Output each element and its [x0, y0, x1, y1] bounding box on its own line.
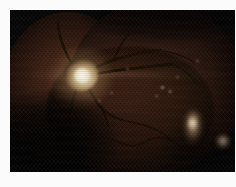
vignette-superior	[80, 10, 235, 52]
retina-lobe-nasal	[10, 12, 134, 164]
film-texture-overlay	[10, 10, 235, 172]
optic-cup	[74, 68, 90, 83]
retina-illumination-glow	[10, 10, 235, 172]
exudate-speck	[196, 60, 199, 62]
optic-disc	[64, 58, 98, 91]
exudate-speck	[176, 76, 179, 78]
optic-disc-halo	[50, 46, 112, 106]
exudate-speck	[168, 90, 172, 93]
vignette-inferonasal	[10, 80, 140, 172]
vessel-segment	[82, 76, 122, 120]
exudate-speck	[160, 86, 165, 89]
vascular-arcade-overlay	[10, 10, 235, 172]
screenshot-viewport: Retinal fundus photograph	[0, 0, 236, 187]
lesion-peripheral	[216, 134, 230, 148]
vessel-segment	[174, 142, 196, 160]
vessel-segment	[82, 64, 172, 76]
vessel-segment	[172, 64, 196, 82]
vessel-segment	[69, 76, 82, 144]
illumination-streak	[30, 72, 230, 77]
vessel-segment	[78, 137, 174, 146]
vessel-segment	[114, 34, 128, 60]
exudate-speck	[98, 100, 101, 102]
fundus-photograph[interactable]	[10, 10, 235, 172]
vessel-segment	[122, 120, 176, 144]
retina-lobe-inferior	[46, 46, 214, 172]
vessel-segment	[82, 50, 160, 76]
vessel-segment	[58, 22, 82, 76]
vessel-segment	[98, 104, 108, 126]
exudate-speck	[110, 92, 113, 94]
lesion-inferotemporal-core	[188, 115, 197, 131]
scanline-grain-overlay	[10, 10, 235, 172]
vessel-segment	[52, 96, 70, 114]
vessel-segment	[160, 50, 194, 62]
retina-lobe-temporal	[68, 10, 235, 172]
exudate-speck	[155, 95, 158, 97]
exudate-speck	[126, 68, 129, 70]
lesion-inferotemporal	[182, 110, 204, 158]
vignette-inferotemporal	[160, 128, 235, 172]
